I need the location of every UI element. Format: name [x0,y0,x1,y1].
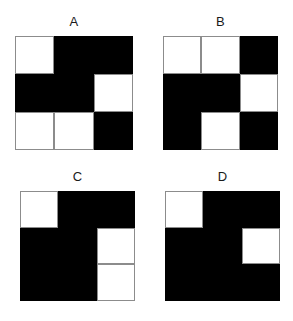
panel-d: D [165,169,280,301]
cell-a-r1c3 [94,36,133,74]
cell-a-r1c1 [15,36,54,74]
cell-c-r2c3 [97,228,135,265]
cell-c-r3c3 [97,264,135,301]
panel-b: B [163,14,278,150]
cell-a-r3c3 [94,112,133,150]
figure-canvas: A B C D [0,0,293,321]
panel-c-grid [20,191,135,301]
cell-b-r2c2 [201,74,239,112]
cell-d-r2c3 [242,228,280,265]
cell-c-r1c2 [58,191,96,228]
cell-d-r1c1 [165,191,203,228]
cell-b-r2c1 [163,74,201,112]
cell-a-r1c2 [54,36,93,74]
panel-a: A [15,14,133,150]
cell-d-r3c2 [203,264,241,301]
panel-b-grid [163,36,278,150]
cell-c-r1c1 [20,191,58,228]
cell-c-r3c1 [20,264,58,301]
cell-b-r3c3 [240,112,278,150]
panel-d-grid [165,191,280,301]
cell-a-r3c1 [15,112,54,150]
cell-b-r2c3 [240,74,278,112]
cell-d-r1c2 [203,191,241,228]
cell-a-r2c2 [54,74,93,112]
panel-c-label: C [73,169,83,184]
cell-a-r2c1 [15,74,54,112]
cell-a-r3c2 [54,112,93,150]
cell-b-r3c1 [163,112,201,150]
cell-d-r3c1 [165,264,203,301]
cell-c-r2c2 [58,228,96,265]
cell-d-r3c3 [242,264,280,301]
cell-c-r2c1 [20,228,58,265]
cell-d-r2c1 [165,228,203,265]
cell-c-r3c2 [58,264,96,301]
cell-a-r2c3 [94,74,133,112]
cell-b-r1c1 [163,36,201,74]
cell-d-r1c3 [242,191,280,228]
cell-c-r1c3 [97,191,135,228]
cell-b-r3c2 [201,112,239,150]
panel-c: C [20,169,135,301]
panel-d-label: D [218,169,228,184]
panel-a-label: A [70,14,79,29]
cell-b-r1c2 [201,36,239,74]
cell-b-r1c3 [240,36,278,74]
cell-d-r2c2 [203,228,241,265]
panel-a-grid [15,36,133,150]
panel-b-label: B [216,14,225,29]
